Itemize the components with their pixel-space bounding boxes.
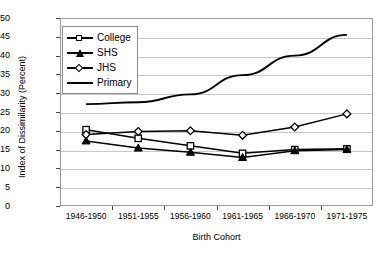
x-tick-mark [217, 206, 218, 210]
legend-item-jhs: JHS [67, 60, 131, 75]
y-tick-label: 40 [0, 51, 10, 60]
y-tick-label: 45 [0, 32, 10, 41]
x-tick-mark [112, 206, 113, 210]
legend-marker-plain-line-icon [67, 77, 93, 88]
y-tick-label: 10 [0, 164, 10, 173]
y-tick-mark [56, 206, 60, 207]
series-jhs [82, 110, 351, 139]
x-axis-title: Birth Cohort [60, 232, 373, 242]
legend-label-shs: SHS [93, 47, 118, 58]
y-tick-label: 30 [0, 89, 10, 98]
x-tick-mark [321, 206, 322, 210]
legend-item-college: College [67, 30, 131, 45]
legend-item-shs: SHS [67, 45, 131, 60]
chart-legend: College SHS JHS Primary [62, 26, 138, 94]
data-point-marker [239, 131, 247, 139]
series-college [83, 126, 350, 156]
y-tick-label: 25 [0, 108, 10, 117]
legend-label-jhs: JHS [93, 62, 116, 73]
legend-marker-open-diamond-icon [67, 62, 93, 73]
legend-item-primary: Primary [67, 75, 131, 90]
legend-marker-open-square-icon [67, 32, 93, 43]
legend-marker-filled-triangle-icon [67, 47, 93, 58]
x-tick-mark [269, 206, 270, 210]
y-tick-label: 20 [0, 126, 10, 135]
y-tick-label: 15 [0, 145, 10, 154]
x-tick-label: 1971-1975 [315, 211, 379, 221]
data-point-marker [134, 128, 142, 136]
data-point-marker [187, 127, 195, 135]
y-tick-label: 50 [0, 14, 10, 23]
chart-container: 05101520253035404550 1946-19501951-19551… [0, 0, 386, 253]
y-tick-label: 5 [0, 183, 10, 192]
y-axis-title: Index of Dissimilarity (Percent) [17, 22, 27, 212]
y-tick-label: 0 [0, 202, 10, 211]
y-tick-label: 35 [0, 70, 10, 79]
data-point-marker [291, 123, 299, 131]
legend-label-college: College [93, 32, 131, 43]
data-point-marker [343, 110, 351, 118]
legend-label-primary: Primary [93, 77, 131, 88]
x-tick-mark [164, 206, 165, 210]
